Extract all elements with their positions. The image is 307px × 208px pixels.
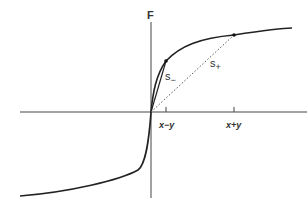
force-curve-diagram: F s− s+ x−y x+y	[0, 0, 307, 208]
secant-s-plus	[151, 35, 234, 112]
point-x-minus-y	[164, 59, 168, 63]
axis-label-f: F	[147, 9, 154, 21]
point-x-plus-y	[232, 33, 236, 37]
tick-label-x-minus-y: x−y	[158, 120, 175, 130]
label-s-minus: s−	[165, 70, 176, 85]
tick-label-x-plus-y: x+y	[225, 120, 242, 130]
secant-s-minus	[151, 61, 166, 112]
label-s-plus: s+	[210, 57, 221, 72]
